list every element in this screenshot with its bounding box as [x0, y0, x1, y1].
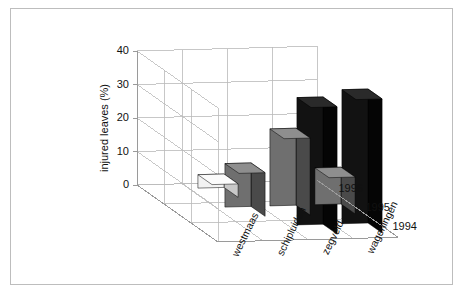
- series-label-1996: 1996: [339, 182, 363, 194]
- y-tick-0: 0: [103, 178, 129, 190]
- plot-area: 010203040 injured leaves (%) westmaassch…: [0, 0, 464, 296]
- y-axis-label: injured leaves (%): [98, 84, 110, 172]
- y-tick-40: 40: [103, 44, 129, 56]
- bar-front-1995-zegveld: [270, 128, 296, 206]
- bar-group: [198, 89, 382, 234]
- chart-figure: 010203040 injured leaves (%) westmaassch…: [0, 0, 464, 296]
- series-label-1995: 1995: [366, 201, 390, 213]
- series-label-1994: 1994: [393, 220, 417, 232]
- bar-side-1995-zegveld: [296, 128, 310, 215]
- bar-side-1994-zegveld: [323, 97, 337, 234]
